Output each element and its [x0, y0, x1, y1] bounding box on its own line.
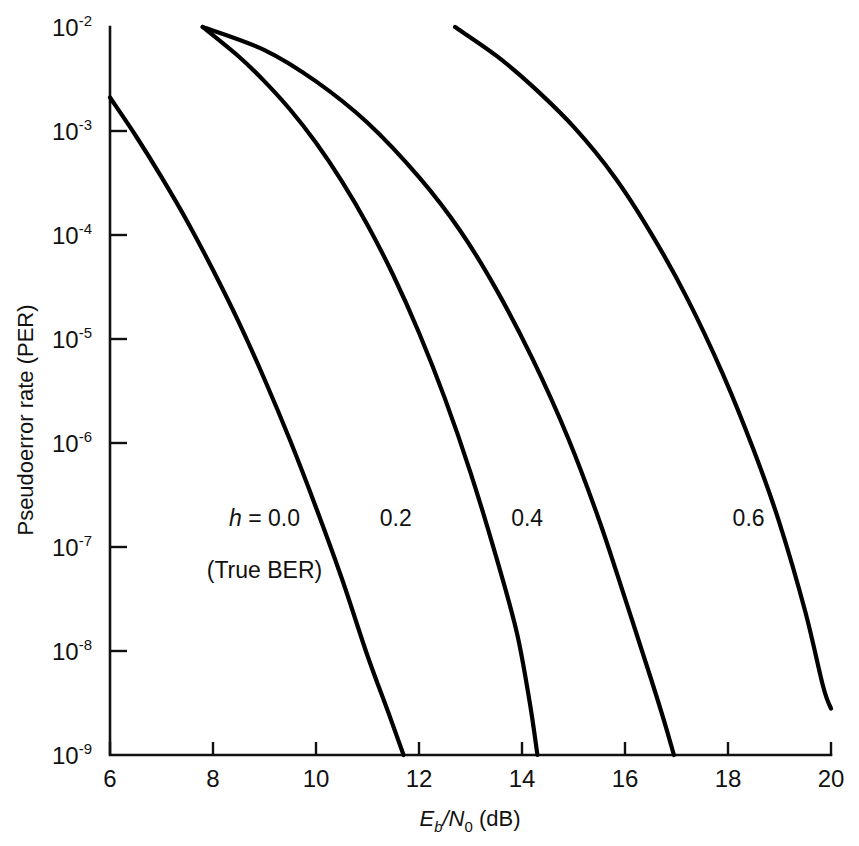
x-title-zero: 0: [465, 818, 473, 835]
y-tick-exponent: -9: [79, 740, 92, 757]
y-tick-label: 10-4: [52, 220, 92, 249]
y-tick-label: 10-6: [52, 428, 92, 457]
plot-axes: [110, 27, 831, 755]
curve-annotation: 0.2: [380, 505, 412, 531]
x-tick-label: 14: [509, 765, 536, 792]
curve-h-0.4: [203, 27, 674, 755]
y-tick-label: 10-7: [52, 532, 92, 561]
curve-annotation: (True BER): [207, 557, 322, 583]
curve-annotation: 0.4: [511, 505, 543, 531]
axis-lines: [110, 27, 831, 755]
y-tick-mantissa: 10: [52, 118, 79, 145]
y-axis-tick-labels: 10-210-310-410-510-610-710-810-9: [52, 12, 92, 769]
x-axis-ticks: [110, 742, 831, 755]
x-tick-label: 6: [103, 765, 116, 792]
x-tick-label: 18: [715, 765, 742, 792]
y-tick-exponent: -8: [79, 636, 92, 653]
y-tick-label: 10-5: [52, 324, 92, 353]
x-tick-label: 16: [612, 765, 639, 792]
chart-figure: 68101214161820 10-210-310-410-510-610-71…: [0, 0, 859, 846]
annotation-h: h: [229, 505, 242, 531]
y-tick-label: 10-3: [52, 116, 92, 145]
y-tick-exponent: -7: [79, 532, 92, 549]
y-tick-mantissa: 10: [52, 534, 79, 561]
y-tick-label: 10-8: [52, 636, 92, 665]
x-tick-label: 8: [206, 765, 219, 792]
curve-annotation: 0.6: [733, 505, 765, 531]
data-curves: [110, 27, 831, 755]
y-tick-mantissa: 10: [52, 638, 79, 665]
curve-h-0.0: [110, 97, 404, 755]
y-axis-ticks: [110, 131, 127, 651]
y-tick-label: 10-2: [52, 12, 92, 41]
x-tick-label: 12: [406, 765, 433, 792]
y-tick-mantissa: 10: [52, 430, 79, 457]
pseudoerror-rate-chart: 68101214161820 10-210-310-410-510-610-71…: [0, 0, 859, 846]
y-tick-mantissa: 10: [52, 222, 79, 249]
y-tick-mantissa: 10: [52, 742, 79, 769]
y-tick-exponent: -6: [79, 428, 92, 445]
x-tick-label: 10: [303, 765, 330, 792]
y-tick-exponent: -3: [79, 116, 92, 133]
x-tick-label: 20: [818, 765, 845, 792]
curve-annotation: h = 0.0: [229, 505, 300, 531]
x-axis-tick-labels: 68101214161820: [103, 765, 844, 792]
x-axis-title: Eb/N0 (dB): [419, 806, 520, 835]
x-title-slash-N: /N: [441, 806, 465, 831]
annotation-value: = 0.0: [242, 505, 300, 531]
y-tick-mantissa: 10: [52, 326, 79, 353]
y-tick-label: 10-9: [52, 740, 92, 769]
y-axis-title: Pseudoerror rate (PER): [13, 304, 38, 535]
y-tick-exponent: -2: [79, 12, 92, 29]
y-tick-exponent: -4: [79, 220, 92, 237]
y-tick-mantissa: 10: [52, 14, 79, 41]
x-title-E: E: [419, 806, 434, 831]
curve-h-0.2: [203, 27, 538, 755]
x-title-units: (dB): [473, 806, 521, 831]
x-title-b: b: [434, 818, 442, 835]
y-tick-exponent: -5: [79, 324, 92, 341]
